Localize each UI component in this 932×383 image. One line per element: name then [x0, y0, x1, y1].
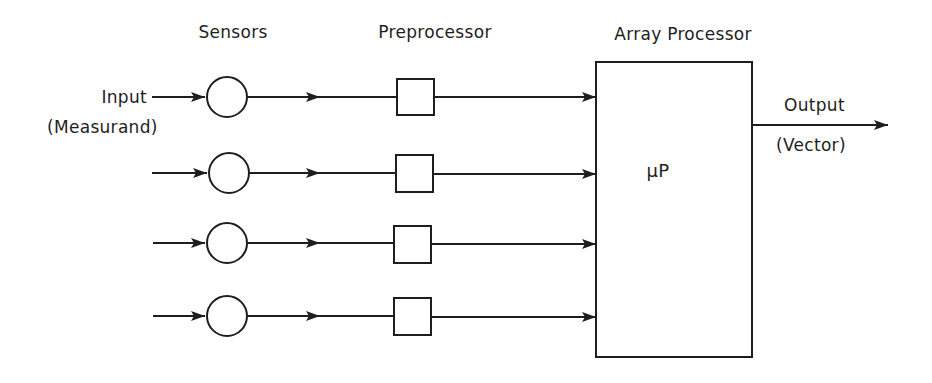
array-processor-header: Array Processor	[614, 26, 752, 43]
sensor-array-diagram	[0, 0, 932, 383]
output-label: Output	[784, 97, 845, 114]
input-label: Input	[101, 89, 147, 106]
sensor-4	[207, 296, 247, 336]
preprocessor-4	[394, 298, 431, 335]
sensor-2	[209, 153, 249, 193]
sensors-header: Sensors	[198, 24, 267, 41]
channel-1	[152, 77, 596, 117]
preprocessor-1	[397, 79, 434, 115]
channel-2	[152, 153, 596, 193]
preprocessor-header: Preprocessor	[378, 24, 491, 41]
output-sublabel: (Vector)	[776, 137, 846, 154]
microprocessor-label: μP	[647, 162, 670, 180]
preprocessor-2	[396, 155, 433, 192]
preprocessor-3	[394, 226, 431, 263]
sensor-1	[207, 77, 247, 117]
sensor-3	[207, 223, 247, 263]
channel-3	[153, 223, 596, 263]
array-processor-box	[596, 62, 752, 357]
input-sublabel: (Measurand)	[47, 119, 158, 136]
channel-4	[153, 296, 596, 336]
